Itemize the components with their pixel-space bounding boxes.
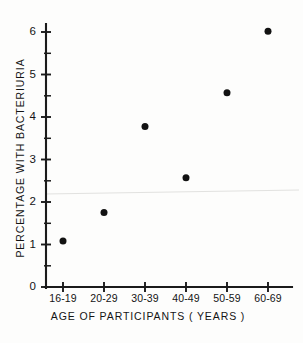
y-tick-label-3: 3 xyxy=(29,153,36,165)
x-tick-label-20-29: 20-29 xyxy=(90,292,117,304)
y-tick-label-0: 0 xyxy=(29,280,36,292)
data-point xyxy=(142,123,149,130)
faint-reference-line xyxy=(45,190,299,194)
data-point xyxy=(265,28,272,35)
data-point xyxy=(224,89,231,96)
data-point xyxy=(60,238,67,245)
scatter-chart-figure: 0 1 2 3 4 5 6 16-19 20-29 30-39 40-49 50… xyxy=(0,0,303,343)
plot-area: 0 1 2 3 4 5 6 16-19 20-29 30-39 40-49 50… xyxy=(0,0,303,343)
x-tick-label-50-59: 50-59 xyxy=(213,292,240,304)
x-tick-label-60-69: 60-69 xyxy=(254,292,281,304)
y-tick-label-6: 6 xyxy=(29,25,36,37)
x-axis-title: AGE OF PARTICIPANTS ( YEARS ) xyxy=(51,310,246,322)
x-tick-label-40-49: 40-49 xyxy=(172,292,199,304)
data-point xyxy=(183,174,190,181)
y-axis-title: PERCENTAGE WITH BACTERIURIA xyxy=(14,58,26,257)
y-tick-label-4: 4 xyxy=(29,110,36,122)
y-tick-label-2: 2 xyxy=(29,195,36,207)
data-point xyxy=(101,209,108,216)
y-tick-label-1: 1 xyxy=(29,238,36,250)
x-tick-label-16-19: 16-19 xyxy=(49,292,76,304)
data-series-bacteriuria xyxy=(60,28,272,245)
x-tick-label-30-39: 30-39 xyxy=(131,292,158,304)
y-tick-label-5: 5 xyxy=(29,68,36,80)
